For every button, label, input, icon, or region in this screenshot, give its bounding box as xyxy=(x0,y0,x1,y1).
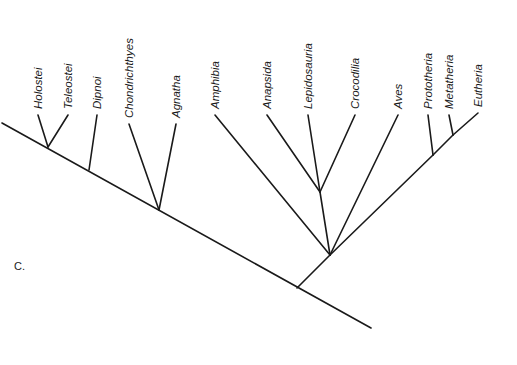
taxon-label-teleostei: Teleostei xyxy=(62,63,74,109)
taxon-label-aves: Aves xyxy=(392,83,404,110)
therian-stem-edge xyxy=(433,135,453,155)
taxon-label-anapsida: Anapsida xyxy=(261,61,273,110)
branch-crocodilia xyxy=(320,115,355,192)
branch-eutheria xyxy=(453,113,478,135)
branch-aves xyxy=(330,115,398,255)
cladogram: HolosteiTeleosteiDipnoiChondrichthyesAgn… xyxy=(0,0,517,365)
branch-metatheria xyxy=(449,115,453,135)
backbone-edge xyxy=(2,123,371,328)
taxon-label-lepidosauria: Lepidosauria xyxy=(302,43,314,109)
taxon-label-amphibia: Amphibia xyxy=(209,61,221,110)
branch-teleostei xyxy=(48,115,68,147)
branch-prototheria xyxy=(428,115,433,155)
branch-agnatha xyxy=(159,124,176,210)
taxon-label-agnatha: Agnatha xyxy=(170,75,182,119)
branch-dipnoi xyxy=(89,115,97,170)
tree-edges xyxy=(2,113,478,328)
branch-amphibia xyxy=(215,115,330,255)
branch-lepidosauria xyxy=(308,115,320,192)
taxon-label-dipnoi: Dipnoi xyxy=(91,76,103,109)
taxon-label-eutheria: Eutheria xyxy=(472,64,484,107)
branch-anapsida xyxy=(267,115,320,192)
taxon-label-chondrichthyes: Chondrichthyes xyxy=(123,38,135,118)
mammal-stem-edge xyxy=(330,155,433,255)
branch-chondrichthyes xyxy=(129,124,159,210)
taxon-label-metatheria: Metatheria xyxy=(443,55,455,109)
taxon-label-holostei: Holostei xyxy=(32,67,44,109)
tetrapod-stem-edge xyxy=(297,255,330,288)
branch-holostei xyxy=(38,115,48,147)
taxon-labels: HolosteiTeleosteiDipnoiChondrichthyesAgn… xyxy=(32,38,484,119)
taxon-label-crocodilia: Crocodilia xyxy=(349,58,361,109)
panel-label: C. xyxy=(14,260,25,272)
taxon-label-prototheria: Prototheria xyxy=(422,53,434,109)
